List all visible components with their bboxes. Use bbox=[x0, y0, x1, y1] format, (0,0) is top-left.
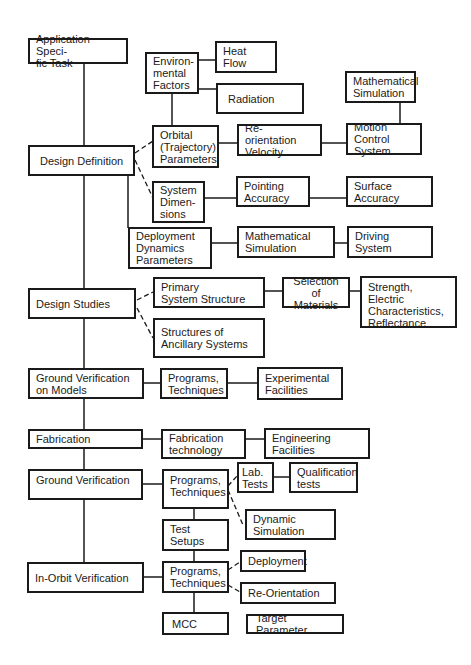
edge-programs3-to-deployment bbox=[228, 562, 240, 570]
deployment-box: Deployment bbox=[240, 550, 306, 572]
surface-accuracy-box: Surface Accuracy bbox=[346, 176, 433, 207]
ancillary-structures-box: Structures of Ancillary Systems bbox=[153, 318, 265, 358]
ground-verification-models-box: Ground Verification on Models bbox=[28, 368, 144, 399]
radiation-box: Radiation bbox=[216, 83, 304, 114]
edge-studies-to-ancillary bbox=[137, 308, 153, 338]
motion-control-system-box: Motion Control System bbox=[346, 123, 422, 155]
flowchart-canvas: Application Speci- fic Task Design Defin… bbox=[0, 0, 471, 665]
design-studies-box: Design Studies bbox=[28, 288, 136, 319]
edge-programs2-to-lab bbox=[228, 476, 237, 486]
engineering-facilities-box: Engineering Facilities bbox=[264, 428, 370, 459]
strength-characteristics-box: Strength, Electric Characteristics, Refl… bbox=[360, 276, 457, 328]
in-orbit-verification-box: In-Orbit Verification bbox=[27, 562, 144, 593]
selection-materials-box: Selection of Materials bbox=[282, 277, 350, 308]
reorientation-velocity-box: Re-orientation Velocity bbox=[237, 124, 322, 156]
programs-techniques-1-box: Programs, Techniques bbox=[160, 368, 228, 399]
lab-tests-box: Lab. Tests bbox=[237, 462, 274, 493]
edge-programs2-to-dynsim bbox=[228, 490, 243, 525]
edge-programs3-to-reorientation bbox=[228, 585, 240, 592]
pointing-accuracy-box: Pointing Accuracy bbox=[236, 176, 310, 207]
edge-studies-to-primary bbox=[137, 292, 153, 300]
app-task-box: Application Speci- fic Task bbox=[28, 38, 128, 64]
re-orientation-box: Re-Orientation bbox=[240, 582, 336, 604]
test-setups-box: Test Setups bbox=[162, 519, 229, 551]
programs-techniques-2-box: Programs, Techniques bbox=[162, 469, 229, 509]
system-dimensions-box: System Dimen- sions bbox=[152, 181, 205, 223]
dynamic-simulation-box: Dynamic Simulation bbox=[245, 509, 336, 540]
orbital-parameters-box: Orbital (Trajectory) Parameters bbox=[152, 125, 219, 168]
mcc-box: MCC bbox=[162, 612, 229, 635]
edge-design-to-orbital bbox=[135, 141, 153, 153]
fabrication-box: Fabrication bbox=[28, 429, 143, 449]
experimental-facilities-box: Experimental Facilities bbox=[257, 367, 343, 400]
fabrication-technology-box: Fabrication technology bbox=[161, 429, 246, 459]
programs-techniques-3-box: Programs, Techniques bbox=[162, 561, 229, 593]
target-parameter-box: Target Parameter bbox=[246, 614, 344, 634]
qualification-tests-box: Qualification tests bbox=[289, 462, 358, 493]
ground-verification-box: Ground Verification bbox=[28, 469, 143, 500]
edge-design-to-dimensions bbox=[135, 160, 153, 198]
environmental-factors-box: Environ- mental Factors bbox=[145, 52, 199, 94]
driving-system-box: Driving System bbox=[347, 226, 433, 258]
design-definition-box: Design Definition bbox=[28, 145, 135, 176]
primary-structure-box: Primary System Structure bbox=[153, 277, 265, 308]
heat-flow-box: Heat Flow bbox=[215, 41, 277, 73]
math-simulation-1-box: Mathematical Simulation bbox=[345, 71, 416, 103]
math-simulation-2-box: Mathematical Simulation bbox=[237, 226, 335, 258]
deployment-dynamics-box: Deployment Dynamics Parameters bbox=[128, 227, 212, 269]
